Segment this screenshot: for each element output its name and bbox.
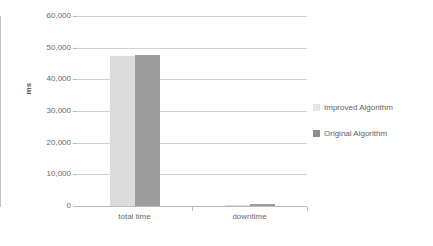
y-axis-line — [0, 16, 1, 207]
y-axis-tick-label: 30,000 — [11, 106, 71, 115]
bar-total-time-improved — [110, 56, 135, 206]
bar-downtime-original — [250, 204, 275, 206]
plot-area — [77, 16, 307, 206]
legend-label-improved: Improved Algorithm — [324, 103, 393, 112]
legend-swatch-icon-improved — [313, 104, 320, 111]
legend-item-original[interactable]: Original Algorithm — [313, 120, 393, 146]
x-axis-tick-mark — [307, 207, 308, 211]
x-axis-tick-mark — [192, 207, 193, 211]
y-axis-tick-label: 60,000 — [11, 11, 71, 20]
y-axis-tick-label: 10,000 — [11, 169, 71, 178]
bar-downtime-improved — [225, 205, 250, 206]
y-axis-tick-label: 40,000 — [11, 74, 71, 83]
y-axis-tick-label: 50,000 — [11, 43, 71, 52]
legend-swatch-icon-original — [313, 130, 320, 137]
legend-label-original: Original Algorithm — [324, 129, 387, 138]
bar-chart: ms 60,00050,00040,00030,00020,00010,0000… — [0, 0, 433, 246]
y-axis-tick-label: 0 — [11, 201, 71, 210]
y-axis-tick-mark — [73, 206, 77, 207]
chart-legend: Improved Algorithm Original Algorithm — [313, 94, 393, 146]
legend-item-improved[interactable]: Improved Algorithm — [313, 94, 393, 120]
y-axis-tick-label: 20,000 — [11, 138, 71, 147]
x-axis-label: downtime — [200, 212, 300, 221]
bar-total-time-original — [135, 55, 160, 206]
x-axis-label: total time — [85, 212, 185, 221]
